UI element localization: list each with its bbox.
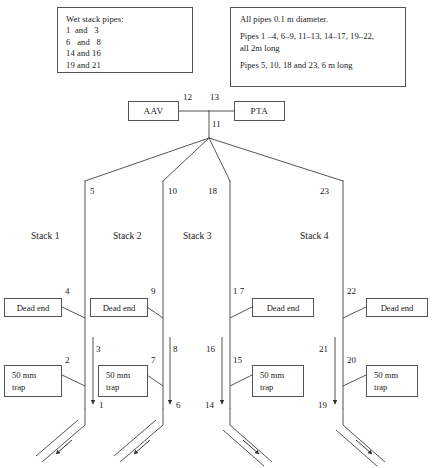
trap-stack-2-line2: trap <box>106 381 130 393</box>
note-pipe-specification: All pipes 0.1 m diameter. Pipes 1 –4, 6–… <box>230 7 406 87</box>
trap-stack-1: 50 mm trap <box>4 365 62 397</box>
trap-stack-1-line1: 50 mm <box>12 369 36 381</box>
pipe-label-11: 11 <box>212 119 221 129</box>
pipe-label-7: 7 <box>151 355 156 365</box>
trap-stack-4: 50 mm trap <box>366 365 418 397</box>
outlet-label-14: 14 <box>205 400 214 410</box>
pipe-label-17: 1 7 <box>233 286 244 296</box>
pipe-label-22: 22 <box>347 286 356 296</box>
pipe-label-2: 2 <box>65 355 70 365</box>
trap-stack-4-line2: trap <box>374 381 398 393</box>
outlet-label-6: 6 <box>176 400 181 410</box>
note-pipe-length-6m: Pipes 5, 10, 18 and 23, 6 m long <box>240 60 405 71</box>
note-wet-pair-3: 14 and 16 <box>66 48 192 59</box>
note-pipe-list-2m: Pipes 1 –4, 6–9, 11–13, 14–17, 19–22, <box>240 31 405 42</box>
riser-label-stack-3: 18 <box>208 186 217 196</box>
stack-name-4: Stack 4 <box>300 230 329 241</box>
wet-pipe-label-16: 16 <box>206 344 215 354</box>
note-wet-pair-2: 6 and 8 <box>66 37 192 48</box>
outlet-label-19: 19 <box>318 400 327 410</box>
pipe-label-12: 12 <box>183 92 192 102</box>
pipe-label-20: 20 <box>347 355 356 365</box>
stack-name-1: Stack 1 <box>31 230 60 241</box>
diagram-canvas: Wet stack pipes: 1 and 3 6 and 8 14 and … <box>0 0 435 468</box>
dead-end-stack-2: Dead end <box>90 298 148 317</box>
aav-unit: AAV <box>128 101 179 121</box>
pipe-label-13: 13 <box>210 92 219 102</box>
note-pipe-diameter: All pipes 0.1 m diameter. <box>240 14 405 25</box>
trap-stack-2: 50 mm trap <box>98 365 148 397</box>
riser-label-stack-1: 5 <box>90 186 95 196</box>
trap-stack-3-line2: trap <box>260 381 284 393</box>
stack-name-3: Stack 3 <box>183 230 212 241</box>
stack-name-2: Stack 2 <box>113 230 142 241</box>
note-wet-heading: Wet stack pipes: <box>66 14 192 25</box>
dead-end-stack-4: Dead end <box>366 298 428 317</box>
trap-stack-1-line2: trap <box>12 381 36 393</box>
note-pipe-length-2m: all 2m long <box>240 43 405 54</box>
riser-label-stack-2: 10 <box>168 186 177 196</box>
pipe-label-15: 15 <box>233 355 242 365</box>
riser-label-stack-4: 23 <box>320 186 329 196</box>
note-wet-stack-pipes: Wet stack pipes: 1 and 3 6 and 8 14 and … <box>57 7 193 73</box>
trap-stack-4-line1: 50 mm <box>374 369 398 381</box>
trap-stack-3: 50 mm trap <box>252 365 304 397</box>
trap-stack-2-line1: 50 mm <box>106 369 130 381</box>
note-wet-pair-1: 1 and 3 <box>66 25 192 36</box>
pipe-label-9: 9 <box>151 286 156 296</box>
wet-pipe-label-3: 3 <box>96 344 101 354</box>
pipe-label-4: 4 <box>65 286 70 296</box>
outlet-label-1: 1 <box>99 400 104 410</box>
pta-unit: PTA <box>234 101 285 121</box>
note-wet-pair-4: 19 and 21 <box>66 60 192 71</box>
dead-end-stack-3: Dead end <box>252 298 314 317</box>
wet-pipe-label-21: 21 <box>319 344 328 354</box>
wet-pipe-label-8: 8 <box>173 344 178 354</box>
trap-stack-3-line1: 50 mm <box>260 369 284 381</box>
dead-end-stack-1: Dead end <box>4 298 62 317</box>
